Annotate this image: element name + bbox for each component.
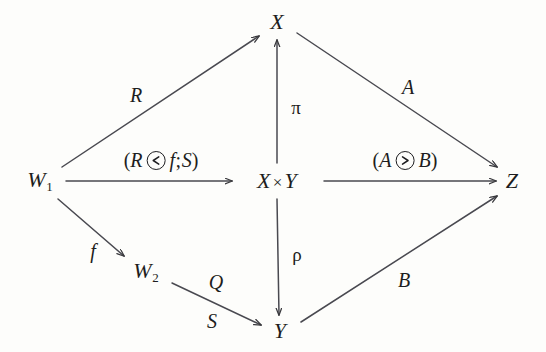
circled-less-than-icon <box>147 151 166 170</box>
close-paren: ) <box>192 150 199 170</box>
times-symbol: × <box>273 173 283 192</box>
term-f: f <box>170 150 176 170</box>
term-B: B <box>419 150 431 170</box>
arrow-xy-to-y <box>277 199 279 315</box>
node-z: Z <box>506 170 518 192</box>
term-A: A <box>379 150 391 170</box>
edge-label-Q: Q <box>209 272 223 292</box>
node-w2: W2 <box>133 260 159 284</box>
edge-label-R: R <box>130 85 142 105</box>
edge-label-right-residual: ( A B ) <box>373 150 438 170</box>
arrow-x-to-z <box>297 33 497 167</box>
edge-label-A: A <box>402 77 414 97</box>
edge-label-f: f <box>90 241 96 261</box>
open-paren: ( <box>373 150 380 170</box>
arrow-w1-to-x <box>62 36 259 167</box>
term-S: S <box>182 150 192 170</box>
edge-label-pi: π <box>291 98 301 117</box>
arrow-y-to-z <box>301 196 497 322</box>
edge-label-rho: ρ <box>292 245 301 264</box>
edge-label-B: B <box>398 270 410 290</box>
edge-label-left-residual: ( R f ; S ) <box>124 150 199 170</box>
node-w1: W1 <box>27 169 53 193</box>
edge-label-S: S <box>207 311 217 331</box>
node-y: Y <box>274 320 286 342</box>
commutative-diagram: W1 X X×Y Y W2 Z R f Q S π ρ A B ( R f ; … <box>0 0 546 352</box>
node-x-times-y: X×Y <box>257 170 297 192</box>
term-R: R <box>130 150 142 170</box>
circled-greater-than-icon <box>396 151 415 170</box>
open-paren: ( <box>124 150 131 170</box>
semicolon: ; <box>176 150 182 170</box>
node-x: X <box>270 11 284 33</box>
close-paren: ) <box>431 150 438 170</box>
